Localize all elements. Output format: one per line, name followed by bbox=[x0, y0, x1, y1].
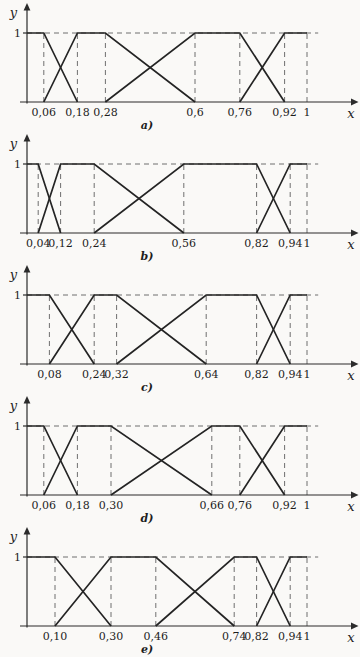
y-axis-arrow-icon bbox=[24, 265, 31, 273]
y-tick-label: 1 bbox=[14, 289, 21, 302]
x-tick-label: 0,24 bbox=[82, 237, 107, 250]
x-tick-label: 0,08 bbox=[37, 368, 62, 381]
membership-line-mf4 bbox=[257, 557, 307, 626]
x-axis-arrow-icon bbox=[351, 623, 359, 630]
x-tick-label: 0,46 bbox=[144, 630, 169, 643]
x-tick-label: 0,18 bbox=[65, 106, 90, 119]
membership-line-mf4 bbox=[240, 33, 307, 102]
membership-chart-c: 10,080,240,320,640,820,941yxc) bbox=[0, 263, 360, 394]
y-tick-label: 1 bbox=[14, 420, 21, 433]
y-tick-label: 1 bbox=[14, 158, 21, 171]
x-tick-label: 0,12 bbox=[48, 237, 73, 250]
y-axis-arrow-icon bbox=[24, 396, 31, 404]
y-tick-label: 1 bbox=[14, 27, 21, 40]
x-tick-label: 0,56 bbox=[172, 237, 197, 250]
membership-line-mf3 bbox=[117, 295, 291, 364]
subplot-c: 10,080,240,320,640,820,941yxc) bbox=[0, 263, 360, 394]
y-tick-label: 1 bbox=[14, 551, 21, 564]
x-tick-label: 0,66 bbox=[200, 499, 225, 512]
x-tick-label: 0,76 bbox=[228, 499, 253, 512]
x-tick-label: 0,82 bbox=[244, 237, 269, 250]
x-tick-label: 0,30 bbox=[99, 630, 124, 643]
membership-chart-d: 10,060,180,300,660,760,921yxd) bbox=[0, 394, 360, 525]
y-axis-label: y bbox=[9, 398, 18, 413]
x-tick-label: 0,18 bbox=[65, 499, 90, 512]
membership-line-mf4 bbox=[257, 295, 307, 364]
x-tick-label: 1 bbox=[304, 630, 311, 643]
membership-line-mf2 bbox=[44, 426, 212, 495]
subplot-a: 10,060,180,280,60,760,921yxa) bbox=[0, 1, 360, 132]
membership-chart-b: 10,040,120,240,560,820,941yxb) bbox=[0, 132, 360, 263]
subplot-label: e) bbox=[141, 643, 153, 656]
membership-line-mf4 bbox=[257, 164, 307, 233]
x-tick-label: 1 bbox=[304, 368, 311, 381]
x-tick-label: 0,30 bbox=[99, 499, 124, 512]
x-axis-label: x bbox=[347, 499, 355, 514]
y-axis-arrow-icon bbox=[24, 134, 31, 142]
x-tick-label: 0,82 bbox=[244, 630, 269, 643]
membership-line-mf2 bbox=[49, 295, 206, 364]
x-tick-label: 0,94 bbox=[278, 237, 303, 250]
x-tick-label: 0,64 bbox=[194, 368, 219, 381]
subplot-b: 10,040,120,240,560,820,941yxb) bbox=[0, 132, 360, 263]
x-axis-arrow-icon bbox=[351, 230, 359, 237]
x-axis-arrow-icon bbox=[351, 99, 359, 106]
x-tick-label: 0,04 bbox=[26, 237, 51, 250]
x-tick-label: 0,94 bbox=[278, 630, 303, 643]
x-tick-label: 0,92 bbox=[272, 106, 297, 119]
x-tick-label: 0,24 bbox=[82, 368, 107, 381]
x-axis-arrow-icon bbox=[351, 361, 359, 368]
x-tick-label: 0,06 bbox=[32, 106, 57, 119]
fuzzy-membership-figure: 10,060,180,280,60,760,921yxa) 10,040,120… bbox=[0, 0, 360, 657]
x-axis-arrow-icon bbox=[351, 492, 359, 499]
y-axis-arrow-icon bbox=[24, 3, 31, 11]
x-tick-label: 0,6 bbox=[186, 106, 204, 119]
y-axis-label: y bbox=[9, 5, 18, 20]
membership-line-mf1 bbox=[27, 426, 77, 495]
x-tick-label: 0,92 bbox=[272, 499, 297, 512]
subplot-label: d) bbox=[141, 512, 154, 525]
y-axis-label: y bbox=[9, 529, 18, 544]
membership-line-mf1 bbox=[27, 164, 61, 233]
membership-line-mf1 bbox=[27, 557, 111, 626]
x-tick-label: 0,74 bbox=[222, 630, 247, 643]
membership-line-mf2 bbox=[55, 557, 234, 626]
x-tick-label: 0,82 bbox=[244, 368, 269, 381]
x-tick-label: 0,32 bbox=[104, 368, 129, 381]
membership-line-mf1 bbox=[27, 295, 94, 364]
x-tick-label: 0,76 bbox=[228, 106, 253, 119]
x-tick-label: 1 bbox=[304, 106, 311, 119]
x-axis-label: x bbox=[347, 368, 355, 383]
subplot-label: a) bbox=[141, 119, 153, 132]
subplot-d: 10,060,180,300,660,760,921yxd) bbox=[0, 394, 360, 525]
membership-line-mf4 bbox=[240, 426, 307, 495]
page: { "figure": { "description_colors": { "l… bbox=[0, 0, 360, 657]
membership-chart-a: 10,060,180,280,60,760,921yxa) bbox=[0, 1, 360, 132]
membership-line-mf1 bbox=[27, 33, 77, 102]
x-tick-label: 0,94 bbox=[278, 368, 303, 381]
x-axis-label: x bbox=[347, 237, 355, 252]
x-tick-label: 0,28 bbox=[93, 106, 118, 119]
x-tick-label: 1 bbox=[304, 237, 311, 250]
subplot-label: b) bbox=[141, 250, 154, 263]
y-axis-label: y bbox=[9, 267, 18, 282]
y-axis-label: y bbox=[9, 136, 18, 151]
y-axis-arrow-icon bbox=[24, 527, 31, 535]
x-axis-label: x bbox=[347, 630, 355, 645]
subplot-e: 10,100,300,460,740,820,941yxe) bbox=[0, 525, 360, 656]
x-tick-label: 0,06 bbox=[32, 499, 57, 512]
x-tick-label: 0,10 bbox=[43, 630, 68, 643]
subplot-label: c) bbox=[141, 381, 153, 394]
membership-line-mf2 bbox=[38, 164, 184, 233]
x-tick-label: 1 bbox=[304, 499, 311, 512]
membership-chart-e: 10,100,300,460,740,820,941yxe) bbox=[0, 525, 360, 656]
x-axis-label: x bbox=[347, 106, 355, 121]
